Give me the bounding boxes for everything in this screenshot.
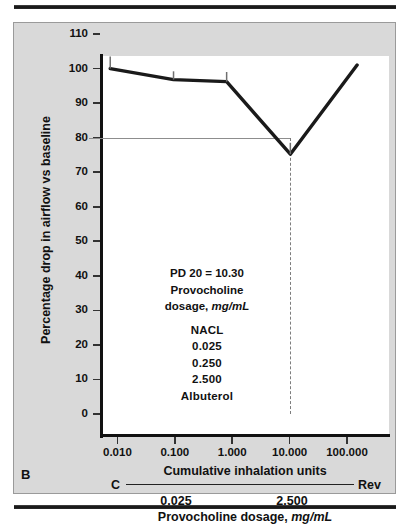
panel-letter: B (21, 467, 30, 482)
dose-axis-title-em: mg/mL (291, 510, 332, 524)
annotation-pd20: PD 20 = 10.30 (132, 265, 282, 282)
series-polyline (110, 65, 357, 154)
x-axis-caption: Cumulative inhalation units (163, 464, 326, 478)
plot-annotation: PD 20 = 10.30 Provocholine dosage, mg/mL… (132, 265, 282, 404)
figure-panel: Percentage drop in airflow vs baseline 0… (13, 22, 396, 494)
annotation-item-list: NACL0.0250.2502.500Albuterol (132, 322, 282, 405)
annotation-dosage-units: dosage, mg/mL (132, 298, 282, 315)
annotation-units-em: mg/mL (211, 300, 249, 312)
annotation-spacer (132, 315, 282, 322)
c-to-rev-line (126, 484, 354, 485)
data-series-line (14, 23, 397, 495)
annotation-item: 0.250 (132, 355, 282, 372)
bottom-divider-rule (14, 505, 396, 509)
annotation-item: 0.025 (132, 338, 282, 355)
rev-label: Rev (358, 478, 381, 492)
annotation-item: Albuterol (132, 388, 282, 405)
annotation-item: 2.500 (132, 371, 282, 388)
dose-axis-title: Provocholine dosage, mg/mL (158, 510, 332, 524)
top-divider-rule (14, 5, 396, 9)
annotation-item: NACL (132, 322, 282, 339)
annotation-provocholine: Provocholine (132, 282, 282, 299)
c-label: C (111, 478, 120, 492)
